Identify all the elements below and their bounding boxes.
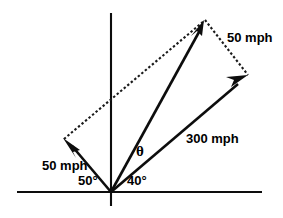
parallelogram-upper-left-side xyxy=(64,21,204,139)
parallelogram-upper-right-side xyxy=(205,20,248,75)
vector-diagram-canvas: 50 mph 50 mph 300 mph 50° 40° θ xyxy=(0,0,283,218)
wind-50mph-vector-arrowhead xyxy=(63,138,80,158)
construction-lines-group xyxy=(64,20,248,139)
wind-50mph-label: 50 mph xyxy=(42,158,88,173)
resultant-vector-shaft xyxy=(111,32,199,192)
plane-300mph-label: 300 mph xyxy=(186,131,239,146)
vector-diagram-figure: 50 mph 50 mph 300 mph 50° 40° θ xyxy=(0,0,283,218)
angle-50-degrees-label: 50° xyxy=(78,173,98,188)
resultant-vector xyxy=(111,20,204,192)
angle-40-degrees-label: 40° xyxy=(127,173,147,188)
side-50mph-label: 50 mph xyxy=(227,30,273,45)
angle-theta-label: θ xyxy=(136,143,144,159)
